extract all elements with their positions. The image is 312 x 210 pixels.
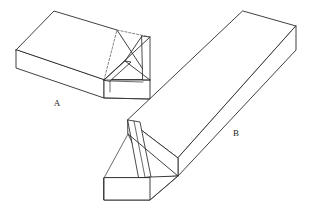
part-b-bottom-front-face <box>104 178 150 200</box>
part-a-group: A <box>16 11 150 108</box>
part-a-hidden-edge-1 <box>117 30 150 37</box>
part-b-tail-shoulder-edge <box>104 134 128 178</box>
part-a-label: A <box>54 98 61 108</box>
part-a-socket-wall-right <box>142 36 150 80</box>
part-a-right-end-face <box>104 80 150 99</box>
part-b-label: B <box>233 128 239 138</box>
part-b-group: B <box>104 11 296 200</box>
dovetail-joint-figure: A B <box>0 0 312 210</box>
technical-line-drawing: A B <box>0 0 312 210</box>
